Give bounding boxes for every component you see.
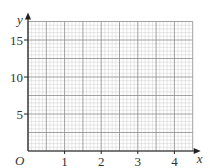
- x-tick-label: 3: [135, 154, 142, 168]
- origin-label: O: [15, 153, 25, 168]
- x-tick-label: 4: [171, 154, 178, 168]
- x-tick-label: 2: [98, 154, 105, 168]
- coordinate-grid-chart: 123451015 x y O: [0, 0, 210, 168]
- x-axis-label: x: [196, 151, 203, 166]
- major-grid: [28, 22, 193, 152]
- y-axis-label: y: [15, 12, 23, 27]
- minor-grid: [28, 22, 193, 152]
- x-tick-label: 1: [61, 154, 68, 168]
- y-axis-arrow-icon: [25, 13, 31, 20]
- y-tick-label: 10: [10, 70, 23, 85]
- y-tick-label: 15: [10, 33, 23, 48]
- y-tick-label: 5: [17, 107, 24, 122]
